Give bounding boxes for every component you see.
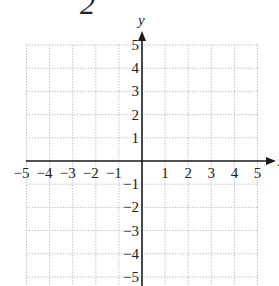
y-tick-label: 2	[132, 107, 140, 123]
x-tick-label: −4	[37, 165, 53, 181]
x-tick-label: −5	[14, 165, 30, 181]
y-tick-label: 1	[132, 130, 140, 146]
x-tick-label: 5	[254, 165, 262, 181]
y-axis-label: y	[136, 12, 145, 28]
x-axis-arrow-icon	[266, 157, 276, 165]
x-tick-label: 3	[208, 165, 216, 181]
x-tick-label: 1	[161, 165, 169, 181]
y-tick-label: −1	[123, 176, 139, 192]
y-axis-arrow-icon	[138, 31, 146, 41]
x-axis-label: x	[277, 154, 279, 169]
y-tick-label: −2	[123, 199, 139, 215]
y-tick-label: −5	[123, 269, 139, 285]
problem-number: 2	[80, 0, 95, 20]
coordinate-plane: 2 x y −5−4−3−2−112345 54321−1−2−3−4−5	[0, 0, 279, 286]
x-tick-label: 2	[184, 165, 192, 181]
x-tick-label: −2	[83, 165, 99, 181]
y-tick-label: 3	[132, 83, 140, 99]
x-tick-label: −3	[60, 165, 76, 181]
y-tick-label: −3	[123, 223, 139, 239]
y-tick-label: 4	[132, 60, 140, 76]
x-tick-label: 4	[231, 165, 239, 181]
y-tick-label: 5	[132, 37, 140, 53]
x-tick-label: −1	[106, 165, 122, 181]
y-tick-label: −4	[123, 246, 139, 262]
